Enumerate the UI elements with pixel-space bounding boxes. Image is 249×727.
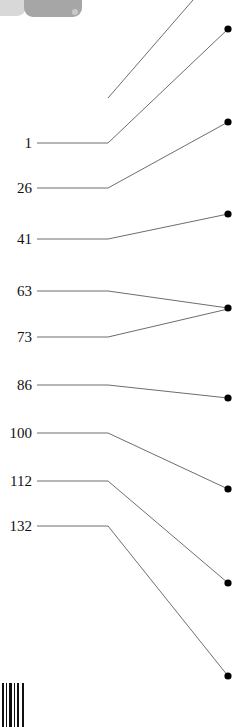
callout-label-73: 73 xyxy=(6,330,32,345)
callout-label-132: 132 xyxy=(0,519,32,534)
leader-dot-100 xyxy=(224,485,231,492)
leader-line-63 xyxy=(37,291,228,308)
leader-lines-layer xyxy=(0,0,249,727)
leader-line-1 xyxy=(37,29,228,143)
leader-dot-132 xyxy=(224,672,231,679)
leader-line-86 xyxy=(37,385,228,398)
callout-label-41: 41 xyxy=(8,232,32,247)
leader-line-26 xyxy=(37,122,228,188)
leader-line-132 xyxy=(37,526,228,676)
leader-line-112 xyxy=(37,481,228,583)
callout-label-112: 112 xyxy=(0,474,32,489)
leader-dot-41 xyxy=(224,210,231,217)
leader-dot-26 xyxy=(224,118,231,125)
callout-label-86: 86 xyxy=(6,378,32,393)
figure-canvas: 12641637386100112132 xyxy=(0,0,249,727)
leader-path-group xyxy=(37,0,228,676)
callout-label-26: 26 xyxy=(6,181,32,196)
leader-from-above-top-edge xyxy=(108,0,193,98)
leader-line-41 xyxy=(37,214,228,239)
callout-label-1: 1 xyxy=(14,136,32,151)
callout-label-63: 63 xyxy=(6,284,32,299)
leader-dot-group xyxy=(224,25,231,679)
leader-dot-63 xyxy=(224,304,231,311)
leader-dot-86 xyxy=(224,394,231,401)
leader-line-73 xyxy=(37,309,228,337)
leader-dot-112 xyxy=(224,579,231,586)
leader-dot-1 xyxy=(224,25,231,32)
callout-label-100: 100 xyxy=(0,426,32,441)
